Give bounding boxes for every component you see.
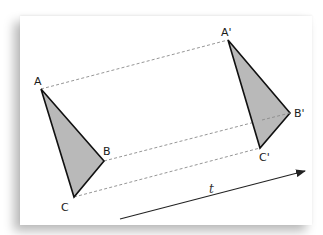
label-a: A bbox=[34, 75, 42, 88]
label-vector-t: t bbox=[209, 182, 214, 196]
translation-diagram: A B C A' B' C' t bbox=[0, 0, 323, 235]
label-c-prime: C' bbox=[259, 151, 270, 164]
dashed-line-a-to-a-prime bbox=[41, 40, 228, 89]
label-a-prime: A' bbox=[221, 26, 232, 39]
label-c: C bbox=[61, 201, 69, 214]
triangle-abc bbox=[41, 89, 104, 197]
label-b-prime: B' bbox=[294, 107, 305, 120]
triangle-a-prime-b-prime-c-prime bbox=[228, 40, 290, 148]
label-b: B bbox=[103, 145, 111, 158]
